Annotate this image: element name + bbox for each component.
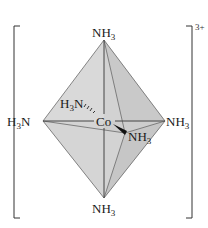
ligand-top-label: NH3: [92, 25, 116, 42]
ligand-bottom-label: NH3: [92, 201, 116, 218]
central-atom-label: Co: [96, 114, 111, 129]
octahedral-complex-diagram: Co NH3 H3N NH3 NH3 H3N NH3 3+: [0, 0, 208, 228]
ligand-left-label: H3N: [7, 114, 31, 131]
charge-label: 3+: [195, 22, 205, 32]
ligand-right-label: NH3: [166, 114, 190, 131]
